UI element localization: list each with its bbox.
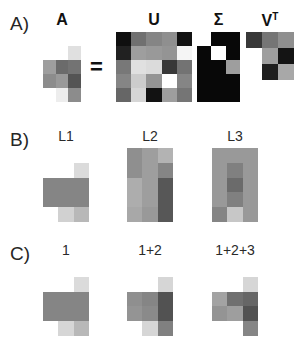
matrix-cell (43, 277, 58, 292)
matrix-cell (74, 321, 89, 336)
matrix-cell (68, 46, 81, 60)
matrix-cell (131, 88, 146, 102)
matrix-cell (158, 178, 173, 193)
matrix-cell (262, 32, 278, 48)
matrix-cell (197, 46, 211, 60)
matrix-cell (212, 178, 227, 193)
matrix-cell (131, 60, 146, 74)
matrix-cell (177, 60, 192, 74)
matrix-cell (43, 148, 58, 163)
matrix-cell (68, 32, 81, 46)
matrix-title-u: U (116, 12, 192, 28)
matrix-cell (116, 46, 131, 60)
matrix-cell (243, 178, 258, 193)
matrix-cell (43, 60, 56, 74)
matrix-cell (56, 32, 69, 46)
matrix-cell (227, 148, 242, 163)
matrix-cell (56, 88, 69, 102)
matrix-cell (226, 32, 240, 46)
matrix-cell (58, 292, 73, 307)
matrix-cell (158, 262, 173, 277)
matrix-cell (127, 148, 142, 163)
matrix-cell (74, 292, 89, 307)
matrix-cell (142, 192, 157, 207)
matrix-cell (116, 74, 131, 88)
matrix-cell (127, 192, 142, 207)
matrix-cell (43, 292, 58, 307)
matrix-cell (227, 163, 242, 178)
matrix-cell (227, 277, 242, 292)
matrix-cell (43, 74, 56, 88)
matrix-cell (43, 178, 58, 193)
matrix-title-a: A (43, 12, 81, 28)
matrix-cell (127, 277, 142, 292)
matrix-cell (177, 46, 192, 60)
matrix-cell (127, 306, 142, 321)
matrix-cell (158, 192, 173, 207)
matrix-cell (58, 306, 73, 321)
matrix-cell (116, 32, 131, 46)
matrix-cell (243, 148, 258, 163)
matrix-cell (127, 321, 142, 336)
matrix-sigma (197, 32, 240, 102)
matrix-cell (243, 262, 258, 277)
matrix-cell (146, 46, 161, 60)
matrix-recon1 (43, 262, 89, 336)
matrix-title-recon3: 1+2+3 (212, 243, 258, 257)
matrix-cell (74, 306, 89, 321)
matrix-title-l3: L3 (212, 129, 258, 143)
matrix-cell (162, 60, 177, 74)
matrix-title-vt: VT (246, 12, 294, 29)
matrix-cell (211, 74, 225, 88)
matrix-cell (177, 88, 192, 102)
matrix-cell (227, 306, 242, 321)
matrix-cell (58, 148, 73, 163)
matrix-cell (56, 74, 69, 88)
matrix-cell (127, 207, 142, 222)
matrix-cell (243, 321, 258, 336)
matrix-cell (146, 32, 161, 46)
matrix-cell (212, 163, 227, 178)
matrix-cell (127, 178, 142, 193)
matrix-cell (142, 207, 157, 222)
matrix-cell (74, 277, 89, 292)
matrix-cell (226, 74, 240, 88)
matrix-cell (43, 32, 56, 46)
matrix-cell (56, 46, 69, 60)
equals-sign: = (90, 56, 103, 78)
matrix-cell (177, 32, 192, 46)
matrix-cell (197, 88, 211, 102)
matrix-cell (58, 178, 73, 193)
matrix-recon2 (127, 262, 173, 336)
matrix-cell (212, 277, 227, 292)
matrix-cell (43, 306, 58, 321)
matrix-cell (58, 321, 73, 336)
matrix-title-recon2: 1+2 (127, 243, 173, 257)
matrix-cell (146, 60, 161, 74)
panel-label-a: A) (10, 14, 29, 33)
matrix-l1 (43, 148, 89, 222)
matrix-cell (142, 321, 157, 336)
matrix-cell (127, 163, 142, 178)
matrix-cell (158, 306, 173, 321)
matrix-cell (43, 321, 58, 336)
matrix-cell (243, 207, 258, 222)
matrix-cell (74, 163, 89, 178)
matrix-cell (142, 178, 157, 193)
matrix-cell (43, 207, 58, 222)
matrix-a (43, 32, 81, 102)
matrix-cell (127, 292, 142, 307)
matrix-cell (158, 321, 173, 336)
matrix-cell (212, 192, 227, 207)
matrix-cell (227, 321, 242, 336)
matrix-cell (116, 60, 131, 74)
matrix-cell (227, 178, 242, 193)
matrix-cell (158, 163, 173, 178)
matrix-cell (227, 192, 242, 207)
panel-label-b: B) (10, 130, 29, 149)
matrix-cell (158, 207, 173, 222)
matrix-cell (142, 163, 157, 178)
matrix-cell (58, 277, 73, 292)
matrix-cell (43, 88, 56, 102)
matrix-cell (58, 262, 73, 277)
